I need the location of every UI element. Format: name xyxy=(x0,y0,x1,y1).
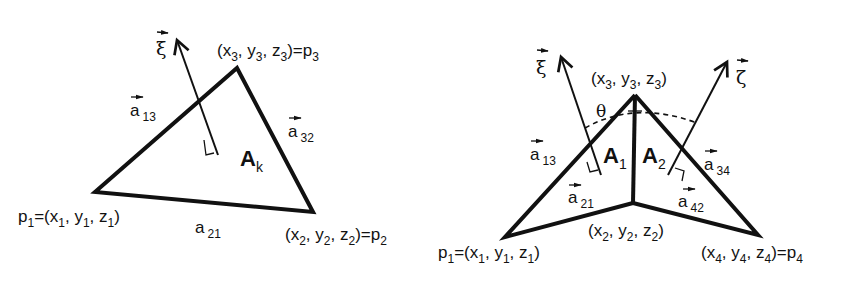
normal-vector-zeta-arrow xyxy=(668,62,727,175)
vertex-p1-label: p1=(x1, y1, z1) xyxy=(438,243,540,266)
edge-a34-label: a34 xyxy=(704,155,730,178)
vertex-p2-label: (x2, y2, z2) xyxy=(588,221,664,244)
normal-vector-xi-arrow xyxy=(177,40,218,155)
edge-a21-label: a21 xyxy=(568,188,594,211)
vertex-p4-label: (x4, y4, z4)=p4 xyxy=(701,243,803,266)
right-figure: θ ξ ζ (x3, y3, z3) A1 A2 a13 a34 a21 a42… xyxy=(438,50,803,266)
zeta-label: ζ xyxy=(736,66,746,88)
xi-label: ξ xyxy=(156,37,166,59)
theta-label: θ xyxy=(596,101,606,121)
vector-arrow-icon xyxy=(537,50,548,51)
vector-arrow-icon xyxy=(157,32,168,33)
right-angle-mark-icon xyxy=(675,168,684,181)
left-figure: ξ (x3, y3, z3)=p3 a13 a32 Ak p1=(x1, y1,… xyxy=(18,32,387,248)
vertex-p3-label: (x3, y3, z3)=p3 xyxy=(217,41,319,64)
area-a2-label: A2 xyxy=(642,143,666,172)
diagram-canvas: ξ (x3, y3, z3)=p3 a13 a32 Ak p1=(x1, y1,… xyxy=(0,0,843,281)
area-ak-label: Ak xyxy=(240,146,264,175)
vertex-p2-label: (x2, y2, z2)=p2 xyxy=(285,225,387,248)
edge-a13-label: a13 xyxy=(530,145,556,168)
edge-a32-label: a32 xyxy=(288,122,314,145)
vector-arrow-icon xyxy=(737,60,748,61)
edge-a21-label: a21 xyxy=(195,218,221,241)
edge-a13-label: a13 xyxy=(130,101,156,124)
area-a1-label: A1 xyxy=(603,143,627,172)
vertex-p3-label: (x3, y3, z3) xyxy=(591,69,667,92)
xi-label: ξ xyxy=(536,56,546,78)
vertex-p1-label: p1=(x1, y1, z1) xyxy=(18,207,120,230)
edge-a42-label: a42 xyxy=(678,192,704,215)
